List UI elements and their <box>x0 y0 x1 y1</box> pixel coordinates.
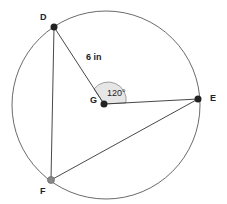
radius-label: 6 in <box>86 52 102 62</box>
point-D <box>51 24 58 31</box>
label-E: E <box>210 93 216 103</box>
label-G: G <box>90 95 97 105</box>
segment-DG <box>54 27 104 104</box>
point-F <box>48 177 55 184</box>
circle-diagram <box>0 0 227 204</box>
segment-DF <box>51 27 54 180</box>
point-E <box>195 96 202 103</box>
label-D: D <box>40 12 47 22</box>
angle-label: 120° <box>107 88 126 98</box>
point-G <box>101 101 108 108</box>
label-F: F <box>40 186 46 196</box>
